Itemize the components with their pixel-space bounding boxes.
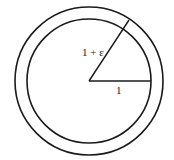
concentric-circles-diagram: 1 1 + ε [0,0,174,160]
inner-radius-label: 1 [116,84,122,96]
outer-radius-label: 1 + ε [82,46,104,58]
